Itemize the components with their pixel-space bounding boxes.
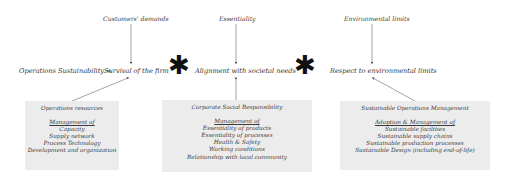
asterisk-operator-1: ✱ xyxy=(168,52,190,78)
asterisk-operator-2: ✱ xyxy=(294,52,316,78)
box-item: Sustainable production processes xyxy=(340,140,490,147)
box-subtitle: Management of xyxy=(25,119,119,126)
box-subtitle: Adoption & Management of xyxy=(340,119,490,126)
box-item: Process Technology xyxy=(25,140,119,147)
label-customers-demands: Customers' demands xyxy=(103,15,169,22)
equation-alignment-societal-needs: Alignment with societal needs xyxy=(195,67,296,75)
box-operations-resources: Operations resources Management of Capac… xyxy=(25,101,119,170)
arrow-som-to-respect xyxy=(373,78,415,101)
box-item: Sustainable supply chains xyxy=(340,133,490,140)
box-item: Supply network xyxy=(25,133,119,140)
label-essentiality: Essentiality xyxy=(219,15,256,22)
box-item: Health & Safety xyxy=(162,139,312,146)
box-title: Operations resources xyxy=(25,105,119,112)
box-corporate-social-responsibility: Corporate Social Responsibility Manageme… xyxy=(162,100,312,172)
label-environmental-limits: Environmental limits xyxy=(344,15,410,22)
box-item: Essentiality of processes xyxy=(162,132,312,139)
box-item: Relationship with local community xyxy=(162,154,312,161)
box-title: Sustainable Operations Management xyxy=(340,105,490,112)
box-item: Working conditions xyxy=(162,146,312,153)
box-item: Essentiality of products xyxy=(162,125,312,132)
box-item: Capacity xyxy=(25,126,119,133)
box-subtitle: Management of xyxy=(162,118,312,125)
equation-lhs: Operations Sustainability = xyxy=(19,67,112,75)
equation-respect-environmental-limits: Respect to environmental limits xyxy=(330,67,437,75)
box-item: Sustainable Design (including end-of-lif… xyxy=(340,147,490,154)
arrow-resources-to-survival xyxy=(72,78,128,101)
equation-survival-of-firm: Survival of the firm xyxy=(104,67,169,75)
box-item: Sustainable facilities xyxy=(340,126,490,133)
box-title: Corporate Social Responsibility xyxy=(162,104,312,111)
box-sustainable-operations-management: Sustainable Operations Management Adopti… xyxy=(340,101,490,170)
box-item: Development and organization xyxy=(25,147,119,154)
